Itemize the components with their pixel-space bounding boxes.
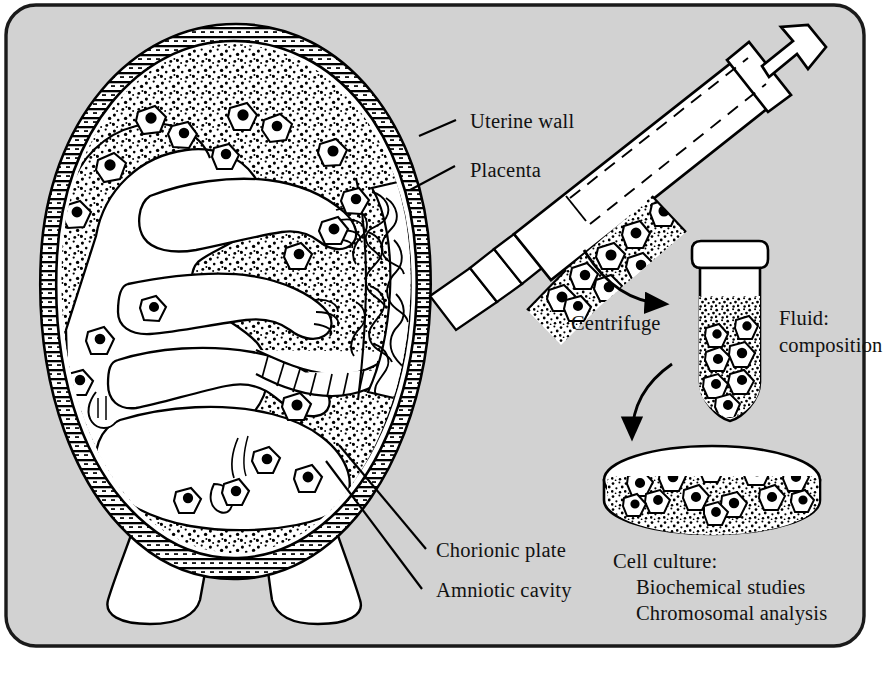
tube-rim: [692, 241, 768, 268]
amniocentesis-diagram: Uterine wall Placenta Chorionic plate Am…: [0, 0, 894, 673]
label-centrifuge: Centrifuge: [571, 312, 661, 335]
label-amniotic-cavity: Amniotic cavity: [436, 579, 572, 602]
label-fluid-line1: Fluid:: [779, 307, 829, 329]
figure-root: Uterine wall Placenta Chorionic plate Am…: [0, 0, 894, 673]
label-chorionic-plate: Chorionic plate: [436, 539, 566, 562]
label-fluid-line2: composition: [779, 334, 883, 357]
label-cell-culture-line1: Cell culture:: [613, 550, 718, 572]
label-cell-culture-line3: Chromosomal analysis: [636, 602, 827, 625]
centrifuge-tube: [692, 241, 768, 426]
label-uterine-wall: Uterine wall: [470, 110, 574, 132]
label-placenta: Placenta: [470, 159, 541, 181]
label-cell-culture-line2: Biochemical studies: [636, 576, 805, 598]
